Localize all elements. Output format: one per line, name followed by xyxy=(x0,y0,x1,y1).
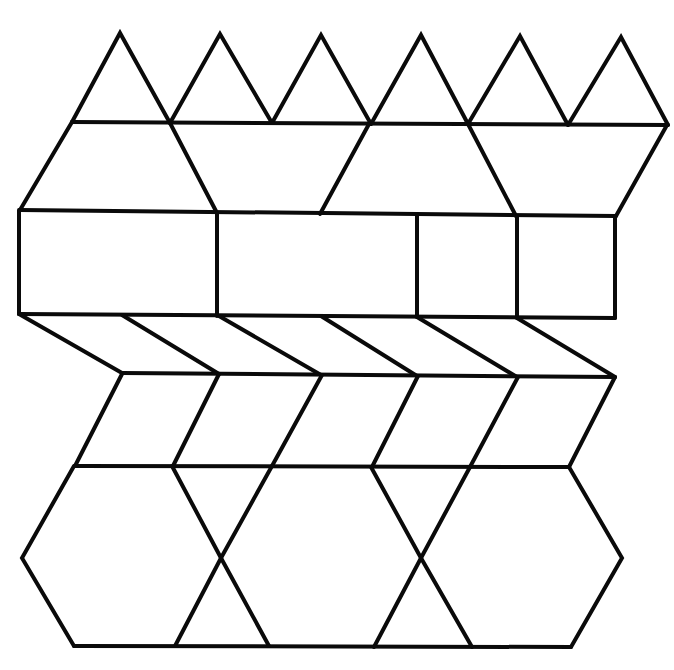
thin-rhombus-edge xyxy=(321,316,417,376)
thin-rhombus-edge xyxy=(19,314,122,373)
trapezoids-row xyxy=(20,122,667,216)
wide-rhombus-edge xyxy=(470,377,518,467)
triangle-edge xyxy=(272,35,371,124)
trapezoid-edge xyxy=(170,123,217,213)
triangle-edge xyxy=(468,36,568,125)
thin-rhombus-edge xyxy=(517,318,615,377)
trapezoid-edge xyxy=(616,125,667,216)
triangles-row xyxy=(72,33,668,125)
tessellation-canvas xyxy=(0,0,674,670)
rhombi-row-upper xyxy=(19,314,615,377)
hexagon-and-triangle-edge xyxy=(22,466,74,646)
thin-rhombus-edge xyxy=(122,315,219,374)
wide-rhombus-edge xyxy=(173,374,219,466)
triangle-edge xyxy=(170,34,272,123)
wide-rhombus-edge xyxy=(272,375,322,466)
rhombi-row-lower xyxy=(75,374,615,467)
shape-rows xyxy=(19,33,668,647)
trapezoid-edge xyxy=(20,210,616,216)
triangle-edge xyxy=(371,35,468,124)
trapezoid-edge xyxy=(320,124,369,214)
hexagons-row xyxy=(22,466,622,647)
rectangle-and-square-edge xyxy=(19,314,615,318)
hexagon-and-triangle-edge xyxy=(175,466,272,646)
hexagon-and-triangle-edge xyxy=(74,646,571,647)
wide-rhombus-edge xyxy=(75,374,122,466)
trapezoid-edge xyxy=(20,122,72,210)
wide-rhombus-edge xyxy=(75,466,569,467)
wide-rhombus-edge xyxy=(372,376,418,467)
thin-rhombus-edge xyxy=(417,317,517,377)
triangle-edge xyxy=(568,37,668,125)
wide-rhombus-edge xyxy=(569,377,615,467)
triangle-edge xyxy=(72,33,170,123)
thin-rhombus-edge xyxy=(122,373,615,377)
tessellation-diagram: Pattern block tessellation worksheet xyxy=(0,0,674,670)
hexagon-and-triangle-edge xyxy=(569,467,622,647)
thin-rhombus-edge xyxy=(219,316,321,375)
rectangles-row xyxy=(19,210,615,318)
trapezoid-edge xyxy=(468,124,516,216)
